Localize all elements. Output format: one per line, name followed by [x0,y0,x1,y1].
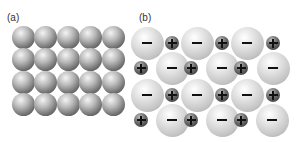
metal-atom [102,26,125,49]
anion [131,79,164,112]
minus-sign-icon [268,67,278,69]
metal-atom [12,26,35,49]
metal-atom [57,93,80,116]
cation [134,113,148,127]
minus-sign-icon [167,119,177,121]
metal-atom [12,48,35,71]
anion [231,79,264,112]
cation [184,61,198,75]
cation [266,88,280,102]
plus-sign-icon [137,64,146,73]
metal-atom [57,71,80,94]
cation [234,61,248,75]
metal-atom [79,48,102,71]
metal-atom [12,93,35,116]
minus-sign-icon [217,67,227,69]
metal-atom [57,48,80,71]
plus-sign-icon [137,116,146,125]
metal-atom [34,71,57,94]
minus-sign-icon [192,94,202,96]
metal-atom [79,26,102,49]
metal-atom [34,93,57,116]
panel-a-label: (a) [7,12,19,23]
anion [181,27,214,60]
metal-atom [57,26,80,49]
cation [134,61,148,75]
metal-atom [34,26,57,49]
plus-sign-icon [168,39,177,48]
metal-atom [12,71,35,94]
plus-sign-icon [187,116,196,125]
plus-sign-icon [218,39,227,48]
metal-atom [79,71,102,94]
cation [215,88,229,102]
plus-sign-icon [269,91,278,100]
cation [165,88,179,102]
minus-sign-icon [267,119,277,121]
plus-sign-icon [237,116,246,125]
plus-sign-icon [168,91,177,100]
minus-sign-icon [217,119,227,121]
metal-atom [79,93,102,116]
cation [234,113,248,127]
minus-sign-icon [142,42,152,44]
metal-atom [102,71,125,94]
metal-atom [102,48,125,71]
cation [215,36,229,50]
cation [184,113,198,127]
cation [266,36,280,50]
anion [131,27,164,60]
minus-sign-icon [242,42,252,44]
plus-sign-icon [237,64,246,73]
anion [231,27,264,60]
plus-sign-icon [187,64,196,73]
panel-b-label: (b) [139,12,151,23]
anion [181,79,214,112]
anion [257,52,290,85]
minus-sign-icon [142,94,152,96]
cation [165,36,179,50]
minus-sign-icon [192,42,202,44]
minus-sign-icon [167,67,177,69]
minus-sign-icon [242,94,252,96]
plus-sign-icon [218,91,227,100]
plus-sign-icon [269,39,278,48]
anion [256,104,289,137]
metal-atom [34,48,57,71]
metal-atom [102,93,125,116]
